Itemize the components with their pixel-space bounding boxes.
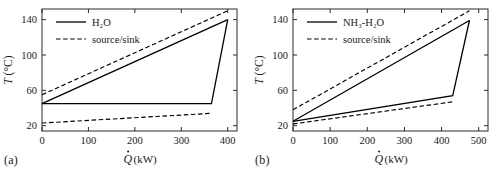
y-tick-label: 100 xyxy=(21,50,37,61)
x-axis-dot-accent xyxy=(378,151,380,153)
legend-label: NH₃-H₂O xyxy=(343,17,385,28)
legend-label: source/sink xyxy=(92,34,141,45)
figure-container: 01002003004002060100140Q(kW)T (°C)H₂Osou… xyxy=(0,0,501,170)
x-axis-symbol: Q xyxy=(375,152,384,166)
chart-panel-a: 01002003004002060100140Q(kW)T (°C)H₂Osou… xyxy=(0,0,250,170)
x-tick-label: 200 xyxy=(127,135,143,146)
x-tick-label: 100 xyxy=(322,135,338,146)
x-tick-label: 300 xyxy=(173,135,189,146)
y-axis-label: T (°C) xyxy=(2,55,15,84)
y-tick-label: 60 xyxy=(27,85,38,96)
series-line xyxy=(293,102,453,124)
y-tick-label: 140 xyxy=(272,14,288,25)
x-axis-label: Q(kW) xyxy=(375,151,409,167)
y-tick-label: 140 xyxy=(21,14,37,25)
x-axis-units: (kW) xyxy=(385,153,409,166)
panel-label-b: (b) xyxy=(255,153,270,168)
legend-label: source/sink xyxy=(343,34,392,45)
y-axis-label: T (°C) xyxy=(253,55,266,84)
x-tick-label: 400 xyxy=(220,135,236,146)
legend-label: H₂O xyxy=(92,17,111,28)
series-line xyxy=(42,20,228,104)
x-axis-label: Q(kW) xyxy=(124,151,158,167)
x-axis-symbol: Q xyxy=(124,152,133,166)
x-tick-label: 500 xyxy=(471,135,487,146)
chart-panel-b: 01002003004005002060100140Q(kW)T (°C)NH₃… xyxy=(251,0,501,170)
y-tick-label: 60 xyxy=(278,85,289,96)
x-axis-units: (kW) xyxy=(134,153,158,166)
y-tick-label: 100 xyxy=(272,50,288,61)
x-axis-dot-accent xyxy=(127,151,129,153)
y-axis-text: T (°C) xyxy=(253,55,266,84)
series-line xyxy=(42,113,211,123)
plot-frame xyxy=(42,9,237,131)
x-tick-label: 300 xyxy=(397,135,413,146)
y-axis-text: T (°C) xyxy=(2,55,15,84)
chart-b-svg: 01002003004005002060100140Q(kW)T (°C)NH₃… xyxy=(251,0,501,170)
series-line xyxy=(42,11,228,95)
x-tick-label: 0 xyxy=(290,135,295,146)
panel-label-a: (a) xyxy=(4,153,18,168)
y-tick-label: 20 xyxy=(27,120,38,131)
chart-a-svg: 01002003004002060100140Q(kW)T (°C)H₂Osou… xyxy=(0,0,250,170)
x-tick-label: 100 xyxy=(81,135,97,146)
x-tick-label: 0 xyxy=(39,135,44,146)
x-tick-label: 400 xyxy=(434,135,450,146)
y-tick-label: 20 xyxy=(278,120,289,131)
x-tick-label: 200 xyxy=(359,135,375,146)
